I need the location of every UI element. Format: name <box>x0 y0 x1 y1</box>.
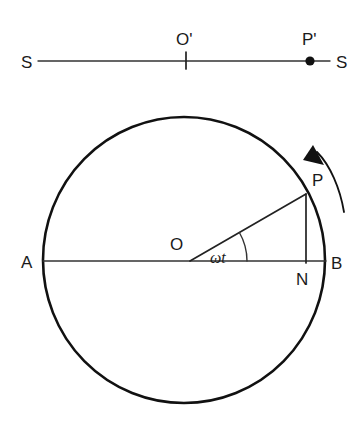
label-p: P <box>312 171 323 190</box>
label-s-left: S <box>21 53 32 72</box>
label-omega-t: ωt <box>210 249 226 266</box>
label-p-prime: P' <box>302 30 317 49</box>
projection-line-group <box>38 52 330 69</box>
angle-arc <box>239 233 247 262</box>
reference-circle-outline <box>43 117 325 403</box>
label-s-right: S <box>336 53 347 72</box>
circle-group <box>43 117 326 403</box>
rotation-arrow-group <box>303 145 344 212</box>
label-a: A <box>21 253 33 272</box>
physics-diagram: S S O' P' A B O N P ωt <box>0 0 360 422</box>
radius-op <box>190 194 306 261</box>
label-n: N <box>296 270 308 289</box>
label-o-prime: O' <box>176 30 192 49</box>
diagram-canvas: S S O' P' A B O N P ωt <box>0 0 360 422</box>
point-p-prime-dot <box>305 56 314 65</box>
label-b: B <box>331 254 342 273</box>
label-o-center: O <box>170 235 183 254</box>
